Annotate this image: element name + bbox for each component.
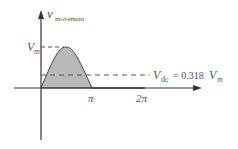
tick-pi: π [88, 92, 94, 104]
dc-label-eq: = 0.318 [173, 70, 204, 81]
half-wave-rectified-waveform-diagram: v movement V m V dc = 0.318 V m π 2π [0, 0, 238, 149]
dc-label-vm-sub: m [217, 75, 223, 84]
half-wave-area [41, 47, 92, 88]
y-axis-arrow-icon [38, 10, 44, 19]
dc-label-sub: dc [161, 75, 169, 84]
tick-2pi: 2π [136, 92, 148, 104]
x-axis-arrow-icon [193, 85, 202, 91]
peak-subscript: m [34, 47, 40, 56]
y-axis-subscript: movement [55, 15, 85, 23]
y-axis-label: v [47, 6, 53, 21]
